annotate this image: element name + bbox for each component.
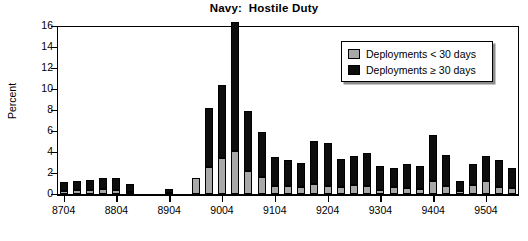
bar-segment-long [231, 22, 239, 151]
x-tick-label: 9504 [463, 204, 509, 216]
x-tick-label: 9204 [305, 204, 351, 216]
legend-label-short: Deployments < 30 days [366, 48, 476, 60]
page-title: Navy: Hostile Duty [0, 2, 528, 14]
y-tick-label: 6 [23, 124, 53, 136]
bar-segment-long [284, 160, 292, 186]
bar-segment-short [442, 186, 450, 194]
bar-segment-short [429, 181, 437, 194]
y-tick-label: 8 [23, 103, 53, 115]
bar-segment-short [86, 190, 94, 194]
bar-segment-long [99, 178, 107, 190]
bar-9501 [469, 164, 477, 194]
x-axis-line [57, 194, 519, 196]
bar-segment-short [73, 190, 81, 194]
bar-9101 [258, 132, 266, 194]
bar-segment-short [218, 158, 226, 194]
bar-segment-short [192, 178, 200, 194]
bar-segment-long [429, 135, 437, 181]
bar-9001 [205, 108, 213, 194]
y-tick-label: 14 [23, 40, 53, 52]
x-tick-mark [328, 196, 329, 202]
x-tick-mark [222, 196, 223, 202]
bar-segment-long [324, 143, 332, 186]
x-tick-label: 9104 [252, 204, 298, 216]
bar-segment-short [390, 187, 398, 194]
bar-8807 [126, 184, 134, 195]
bar-9110 [297, 163, 305, 195]
bar-9507 [495, 160, 503, 194]
x-tick-mark [433, 196, 434, 202]
bar-segment-long [442, 155, 450, 186]
y-axis-label: Percent [6, 66, 18, 136]
bar-8801 [99, 178, 107, 194]
bar-segment-long [390, 168, 398, 187]
bar-9307 [390, 168, 398, 194]
y-tick-label: 10 [23, 82, 53, 94]
y-tick-label: 16 [23, 19, 53, 31]
bar-segment-short [310, 184, 318, 195]
y-tick-label: 2 [23, 166, 53, 178]
bar-8707 [73, 181, 81, 194]
bar-segment-short [258, 177, 266, 194]
x-tick-label: 9404 [410, 204, 456, 216]
bar-9401 [416, 166, 424, 194]
bar-9204 [324, 143, 332, 194]
bar-segment-short [271, 186, 279, 194]
bar-segment-long [218, 85, 226, 157]
bar-segment-long [310, 141, 318, 184]
bar-segment-long [258, 132, 266, 177]
bar-segment-short [376, 190, 384, 194]
bar-9201 [310, 141, 318, 194]
bar-segment-short [284, 186, 292, 194]
x-tick-mark [486, 196, 487, 202]
bar-segment-long [271, 157, 279, 186]
x-tick-label: 9004 [199, 204, 245, 216]
chart-figure: Navy: Hostile Duty Percent 0246810121416… [0, 0, 528, 241]
bar-segment-long [363, 153, 371, 187]
bar-segment-short [482, 181, 490, 194]
bar-9007 [231, 22, 239, 194]
bar-segment-long [86, 180, 94, 189]
bar-segment-long [297, 163, 305, 187]
bar-segment-long [73, 181, 81, 190]
bar-segment-long [416, 166, 424, 189]
x-tick-label: 8904 [146, 204, 192, 216]
bar-9104 [271, 157, 279, 194]
bar-segment-long [350, 156, 358, 185]
bar-segment-long [60, 182, 68, 190]
y-tick-label: 12 [23, 61, 53, 73]
bar-9404 [429, 135, 437, 194]
bar-8904 [165, 189, 173, 194]
bar-segment-long [508, 168, 516, 188]
y-tick-label: 4 [23, 145, 53, 157]
bar-9004 [218, 85, 226, 194]
x-tick-mark [380, 196, 381, 202]
bar-9304 [376, 166, 384, 194]
x-tick-mark [275, 196, 276, 202]
bar-segment-long [403, 164, 411, 188]
bar-8910 [192, 178, 200, 194]
bar-segment-long [244, 111, 252, 171]
bar-8804 [112, 178, 120, 194]
bar-9510 [508, 168, 516, 194]
bar-9210 [350, 156, 358, 194]
bar-segment-short [60, 191, 68, 194]
x-tick-mark [116, 196, 117, 202]
bar-9407 [442, 155, 450, 194]
y-tick-label: 0 [23, 187, 53, 199]
bar-segment-short [112, 190, 120, 194]
bar-segment-short [508, 188, 516, 194]
bar-segment-short [403, 188, 411, 194]
bar-9504 [482, 156, 490, 194]
bar-segment-short [337, 187, 345, 194]
bar-segment-short [231, 151, 239, 194]
bar-9010 [244, 111, 252, 194]
x-tick-label: 9304 [357, 204, 403, 216]
legend-item-long: Deployments ≥ 30 days [348, 62, 486, 78]
bar-segment-long [376, 166, 384, 190]
bar-segment-long [112, 178, 120, 191]
legend-item-short: Deployments < 30 days [348, 46, 486, 62]
bar-segment-short [416, 189, 424, 194]
bar-segment-long [469, 164, 477, 186]
bar-segment-long [456, 181, 464, 191]
